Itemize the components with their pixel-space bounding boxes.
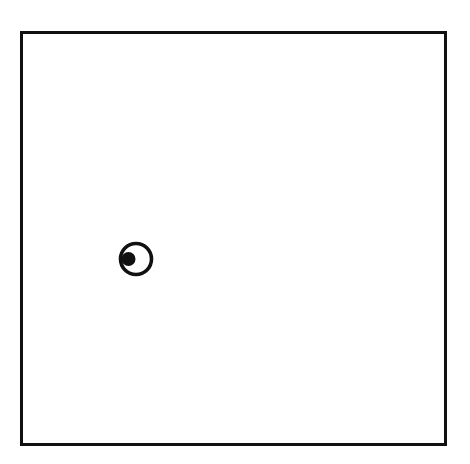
marker-dot xyxy=(122,252,136,266)
eye-icon xyxy=(0,0,470,464)
